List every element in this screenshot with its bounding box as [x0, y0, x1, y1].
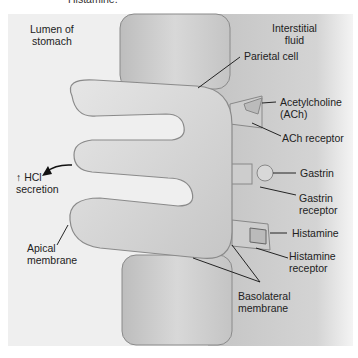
hcl-label-line2: secretion [16, 183, 59, 195]
basolateral-label-line2: membrane [238, 302, 291, 314]
apical-label-line1: Apical [27, 242, 77, 254]
parietal-cell-label: Parietal cell [244, 50, 298, 62]
histamine-receptor-label: Histamine receptor [289, 250, 336, 274]
ach-receptor-label: ACh receptor [282, 132, 344, 144]
ach-label: Acetylcholine (ACh) [280, 96, 342, 120]
gastrin-receptor-shape [230, 164, 273, 184]
interstitial-label-line1: Interstitial [272, 22, 317, 34]
ach-label-line1: Acetylcholine [280, 96, 342, 108]
hcl-secretion-label: ↑ HCl secretion [16, 171, 59, 195]
apical-membrane-label: Apical membrane [27, 242, 77, 266]
parietal-cell-diagram: Histamine. [0, 0, 358, 358]
gastrin-receptor-label-line1: Gastrin [299, 192, 338, 204]
histamine-label: Histamine [292, 227, 339, 239]
parietal-cell-shape [70, 80, 232, 259]
lower-neighbor-cell [122, 255, 232, 345]
upper-neighbor-cell [120, 14, 230, 89]
gastrin-label: Gastrin [300, 167, 334, 179]
lumen-label-line2: stomach [30, 35, 74, 47]
ach-label-line2: (ACh) [280, 108, 342, 120]
lumen-label-line1: Lumen of [30, 23, 74, 35]
basolateral-label-line1: Basolateral [238, 290, 291, 302]
interstitial-label-line2: fluid [272, 34, 317, 46]
histamine-receptor-label-line2: receptor [289, 262, 336, 274]
gastrin-receptor-label-line2: receptor [299, 204, 338, 216]
histamine-receptor-label-line1: Histamine [289, 250, 336, 262]
hcl-label-line1: ↑ HCl [16, 171, 59, 183]
lumen-label: Lumen of stomach [30, 23, 74, 47]
apical-label-line2: membrane [27, 254, 77, 266]
interstitial-label: Interstitial fluid [272, 22, 317, 46]
gastrin-receptor-label: Gastrin receptor [299, 192, 338, 216]
basolateral-membrane-label: Basolateral membrane [238, 290, 291, 314]
histamine-receptor-shape [232, 220, 270, 250]
